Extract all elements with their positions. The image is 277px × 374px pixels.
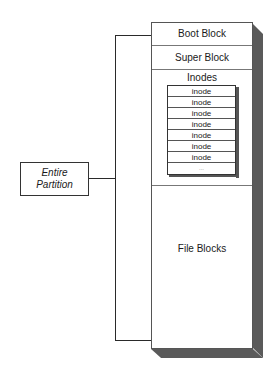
bracket-vertical	[115, 35, 116, 341]
box-shadow-bottom	[151, 349, 263, 358]
boot-block: Boot Block	[152, 23, 252, 46]
inodes-section: Inodes inode inode inode inode inode ino…	[152, 70, 252, 186]
inode-row: inode	[168, 86, 235, 97]
inode-row-ellipsis: ...	[168, 163, 235, 174]
boot-block-label: Boot Block	[178, 28, 226, 39]
label-line1: Entire	[21, 167, 88, 179]
inode-row: inode	[168, 108, 235, 119]
inode-row: inode	[168, 97, 235, 108]
entire-partition-label: Entire Partition	[20, 162, 89, 196]
file-blocks: File Blocks	[152, 186, 252, 348]
inode-row: inode	[168, 119, 235, 130]
partition-box: Boot Block Super Block Inodes inode inod…	[151, 22, 253, 349]
inode-row: inode	[168, 141, 235, 152]
inode-row: inode	[168, 152, 235, 163]
bracket-connector	[89, 178, 116, 179]
inodes-label: Inodes	[152, 72, 252, 84]
super-block: Super Block	[152, 46, 252, 70]
label-line2: Partition	[21, 179, 88, 191]
inode-table: inode inode inode inode inode inode inod…	[167, 85, 236, 175]
super-block-label: Super Block	[175, 52, 229, 63]
box-shadow-right	[253, 24, 263, 358]
inode-table-shadow-right	[236, 87, 239, 178]
file-blocks-label: File Blocks	[152, 243, 252, 254]
inode-row: inode	[168, 130, 235, 141]
